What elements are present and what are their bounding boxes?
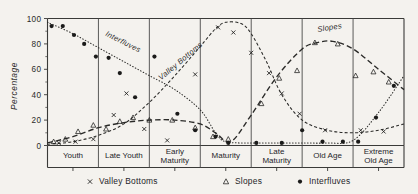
category-label-late-maturity: Maturity xyxy=(262,156,290,165)
curves-group xyxy=(48,22,405,144)
point-interfluves xyxy=(356,140,360,144)
category-label-extreme-old-age: Old Age xyxy=(364,156,393,165)
category-labels: YouthLate YouthEarlyMaturityMaturityLate… xyxy=(63,147,394,166)
y-tick-label: 80 xyxy=(32,40,42,49)
curve-label-interfluves: Interfluves xyxy=(104,29,142,54)
point-interfluves xyxy=(175,112,179,116)
axes-group xyxy=(44,19,404,172)
point-interfluves xyxy=(341,140,345,144)
point-slopes xyxy=(295,68,300,73)
point-valley-bottoms xyxy=(231,30,235,34)
y-axis-title: Percentage xyxy=(9,62,19,110)
point-interfluves xyxy=(280,141,284,145)
point-valley-bottoms xyxy=(112,113,116,117)
category-label-early-maturity: Early xyxy=(166,147,184,156)
category-label-maturity: Maturity xyxy=(212,151,240,160)
legend-x-icon xyxy=(88,179,92,183)
category-label-extreme-old-age: Extreme xyxy=(364,147,394,156)
point-slopes xyxy=(117,119,122,124)
point-slopes xyxy=(371,69,376,74)
legend-label-interfluves: Interfluves xyxy=(309,176,350,186)
point-slopes xyxy=(91,123,96,128)
point-interfluves xyxy=(374,115,378,119)
point-interfluves xyxy=(152,55,156,59)
category-label-late-youth: Late Youth xyxy=(105,151,143,160)
figure-panel: 020406080100 Percentage InterfluvesValle… xyxy=(0,0,418,194)
point-interfluves xyxy=(118,71,122,75)
point-interfluves xyxy=(61,24,65,28)
point-valley-bottoms xyxy=(359,128,363,132)
point-interfluves xyxy=(300,128,304,132)
point-slopes xyxy=(104,126,109,131)
point-slopes xyxy=(386,79,391,84)
point-interfluves xyxy=(72,33,76,37)
point-valley-bottoms xyxy=(382,130,386,134)
point-interfluves xyxy=(82,42,86,46)
category-label-late-maturity: Late xyxy=(269,147,285,156)
point-valley-bottoms xyxy=(91,137,95,141)
point-interfluves xyxy=(193,128,197,132)
category-label-early-maturity: Maturity xyxy=(161,156,189,165)
point-interfluves xyxy=(320,140,324,144)
point-slopes xyxy=(76,129,81,134)
y-tick-label: 60 xyxy=(32,65,42,74)
category-label-youth: Youth xyxy=(63,151,83,160)
inline-curve-labels: InterfluvesValley BottomsSlopes xyxy=(104,21,343,82)
point-valley-bottoms xyxy=(267,71,271,75)
legend: Valley BottomsSlopesInterfluves xyxy=(88,176,351,186)
point-interfluves xyxy=(94,55,98,59)
curve-label-slopes: Slopes xyxy=(317,21,343,34)
point-interfluves xyxy=(392,84,396,88)
point-interfluves xyxy=(133,95,137,99)
point-slopes xyxy=(353,73,358,78)
point-valley-bottoms xyxy=(142,127,146,131)
percentage-vs-landform-stage-chart: 020406080100 Percentage InterfluvesValle… xyxy=(0,0,418,194)
legend-label-slopes: Slopes xyxy=(235,176,262,186)
y-tick-label: 40 xyxy=(32,91,42,100)
point-slopes xyxy=(226,137,231,142)
y-tick-labels: 020406080100 xyxy=(27,15,42,151)
legend-triangle-icon xyxy=(223,179,228,184)
legend-dot-icon xyxy=(298,180,302,184)
point-valley-bottoms xyxy=(124,91,128,95)
y-tick-label: 0 xyxy=(37,142,42,151)
curve-interfluves xyxy=(48,22,405,143)
point-valley-bottoms xyxy=(165,138,169,142)
curve-slopes xyxy=(48,41,405,143)
point-valley-bottoms xyxy=(193,72,197,76)
legend-label-valley-bottoms: Valley Bottoms xyxy=(99,176,158,186)
y-tick-label: 100 xyxy=(27,15,42,24)
point-interfluves xyxy=(49,24,53,28)
point-interfluves xyxy=(107,56,111,60)
point-valley-bottoms xyxy=(298,112,302,116)
category-label-old-age: Old Age xyxy=(313,151,342,160)
point-interfluves xyxy=(254,141,258,145)
y-tick-label: 20 xyxy=(32,116,42,125)
curve-valley-bottoms xyxy=(48,22,405,144)
